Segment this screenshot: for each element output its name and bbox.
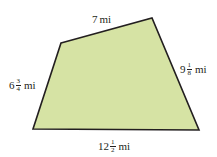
bottom-side-denominator: 2 (110, 147, 116, 154)
right-side-denominator: 8 (187, 70, 193, 77)
top-side-value: 7 (92, 13, 98, 25)
left-side-denominator: 4 (16, 86, 22, 93)
right-side-fraction: 1 8 (187, 62, 193, 77)
left-side-fraction: 3 4 (16, 78, 22, 93)
left-side-whole: 6 (9, 80, 15, 91)
left-side-unit: mi (24, 80, 36, 91)
bottom-side-whole: 12 (98, 141, 109, 152)
bottom-side-fraction: 1 2 (110, 139, 116, 154)
top-side-unit: mi (100, 13, 112, 25)
diagram-stage: 7mi 9 1 8 mi 6 3 4 mi 12 1 2 mi (0, 0, 217, 157)
label-left-side: 6 3 4 mi (9, 78, 36, 93)
label-right-side: 9 1 8 mi (180, 62, 207, 77)
label-bottom-side: 12 1 2 mi (98, 139, 130, 154)
right-side-whole: 9 (180, 64, 186, 75)
quadrilateral-shape (33, 18, 199, 130)
bottom-side-unit: mi (119, 141, 131, 152)
label-top-side: 7mi (92, 14, 111, 25)
right-side-unit: mi (195, 64, 207, 75)
